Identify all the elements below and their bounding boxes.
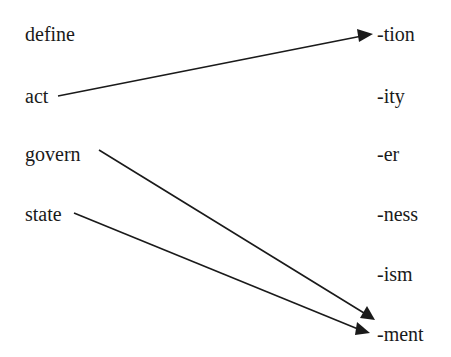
connection-arrows <box>0 0 451 357</box>
arrowhead-tion-icon <box>357 29 373 42</box>
suffix-ism: -ism <box>377 264 413 284</box>
arrowhead-ment-lower-icon <box>355 322 370 335</box>
suffix-ness: -ness <box>377 204 418 224</box>
arrow-act-to-tion <box>58 36 362 96</box>
root-word-govern: govern <box>25 144 81 164</box>
arrow-state-to-ment <box>74 213 358 329</box>
suffix-er: -er <box>377 144 399 164</box>
suffix-tion: -tion <box>377 24 415 44</box>
arrow-govern-to-ment <box>99 150 364 313</box>
suffix-ment: -ment <box>377 324 424 344</box>
arrowhead-ment-upper-icon <box>360 306 375 320</box>
root-word-state: state <box>25 204 62 224</box>
root-word-act: act <box>25 86 48 106</box>
suffix-ity: -ity <box>377 86 405 106</box>
root-word-define: define <box>25 24 75 44</box>
